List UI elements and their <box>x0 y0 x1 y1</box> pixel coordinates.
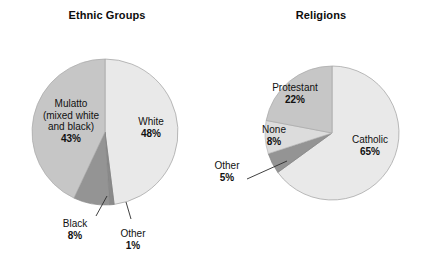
pie-chart-figure: Ethnic Groups Religions <box>0 0 428 272</box>
label-white-pct: 48% <box>126 128 176 140</box>
label-other-ethnic-name: Other <box>112 228 154 240</box>
label-other-religion-pct: 5% <box>206 172 248 184</box>
label-mulatto-line3: and black) <box>24 121 118 133</box>
label-protestant: Protestant 22% <box>262 82 328 105</box>
label-none-name: None <box>253 124 295 136</box>
label-black: Black 8% <box>54 218 96 241</box>
label-other-ethnic: Other 1% <box>112 228 154 251</box>
label-none-pct: 8% <box>253 136 295 148</box>
label-mulatto-line2: (mixed white <box>24 110 118 122</box>
label-catholic: Catholic 65% <box>340 134 400 157</box>
label-catholic-pct: 65% <box>340 146 400 158</box>
label-protestant-pct: 22% <box>262 94 328 106</box>
label-black-name: Black <box>54 218 96 230</box>
label-white: White 48% <box>126 116 176 139</box>
label-mulatto: Mulatto (mixed white and black) 43% <box>24 98 118 144</box>
label-other-ethnic-pct: 1% <box>112 240 154 252</box>
label-mulatto-pct: 43% <box>24 133 118 145</box>
label-other-religion-name: Other <box>206 160 248 172</box>
label-black-pct: 8% <box>54 230 96 242</box>
label-protestant-name: Protestant <box>262 82 328 94</box>
label-mulatto-line1: Mulatto <box>24 98 118 110</box>
label-white-name: White <box>126 116 176 128</box>
leader-line-other-ethnic <box>126 202 131 219</box>
label-catholic-name: Catholic <box>340 134 400 146</box>
label-none: None 8% <box>253 124 295 147</box>
label-other-religion: Other 5% <box>206 160 248 183</box>
